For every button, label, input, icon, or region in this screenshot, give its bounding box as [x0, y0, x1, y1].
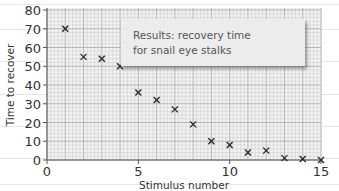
x-axis-title: Stimulus number — [139, 179, 230, 191]
y-tick-label: 20 — [24, 116, 41, 131]
y-tick-labels: 01020304050607080 — [24, 3, 41, 168]
y-tick-label: 0 — [33, 153, 41, 168]
annotation-line-2: for snail eye stalks — [133, 43, 305, 58]
y-tick-label: 50 — [24, 59, 41, 74]
x-tick-label: 0 — [43, 164, 51, 179]
x-tick-labels: 051015 — [43, 164, 329, 179]
results-annotation: Results: recovery time for snail eye sta… — [121, 19, 305, 66]
x-tick-label: 15 — [313, 164, 330, 179]
y-tick-label: 80 — [24, 3, 41, 18]
x-tick-label: 10 — [221, 164, 238, 179]
y-tick-label: 40 — [24, 78, 41, 93]
y-tick-label: 30 — [24, 97, 41, 112]
y-tick-label: 60 — [24, 41, 41, 56]
y-axis-title: Time to recover — [4, 43, 16, 127]
y-tick-label: 10 — [24, 134, 41, 149]
x-tick-label: 5 — [134, 164, 142, 179]
y-tick-label: 70 — [24, 22, 41, 37]
annotation-line-1: Results: recovery time — [133, 28, 305, 43]
